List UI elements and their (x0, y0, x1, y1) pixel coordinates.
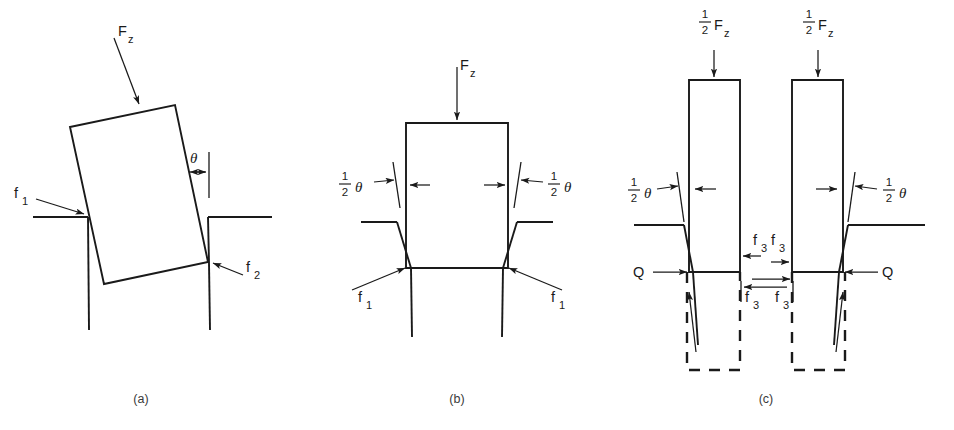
panel-c-force-half-num-left: 1 (702, 8, 708, 20)
panel-b-angle-arrow-left (374, 180, 394, 182)
panel-c-force-half-num-right: 1 (806, 8, 812, 20)
panel-a-force-label-subscript: z (128, 33, 134, 45)
panel-b-f1-label-left-subscript: 1 (366, 299, 372, 311)
panel-a-f1-label-subscript: 1 (22, 195, 28, 207)
panel-c-angle-half-den-left: 2 (631, 192, 637, 204)
panel-c-f3-label-upper-left: f (753, 232, 758, 248)
panel-a-f2-label: f (246, 259, 251, 275)
panel-b-f1-label-left: f (358, 289, 363, 305)
panel-b-groove-wall-right (502, 268, 503, 337)
panel-c-angle-half-num-left: 1 (631, 176, 637, 188)
panel-c-half-fraction-angle-right: 1 2 (883, 176, 895, 204)
panel-a-f2-label-subscript: 2 (254, 269, 260, 281)
panel-c-angle-label-left: θ (644, 185, 652, 201)
panel-c: 1 2 F z 1 2 θ Q f 3 f 3 (628, 8, 925, 406)
panel-c-force-label-right-subscript: z (828, 27, 834, 39)
panel-c-force-label-right: F (818, 17, 827, 33)
panel-c-f3-label-lower-left-subscript: 3 (753, 299, 759, 311)
panel-c-half-fraction-force-right: 1 2 (803, 8, 815, 36)
figure-container: F z θ f 1 f 2 (a) F z (0, 0, 954, 430)
panel-b-half-num-left: 1 (342, 170, 348, 182)
panel-c-f3-label-upper-right: f (771, 232, 776, 248)
panel-b-groove-shoulder-left (397, 222, 411, 268)
panel-b-f1-leader-left (352, 268, 405, 290)
panel-c-block-right (792, 80, 843, 272)
panel-a-block (70, 105, 208, 284)
panel-c-block-left (689, 80, 740, 272)
panel-c-angle-label-right: θ (899, 185, 907, 201)
panel-c-f3-label-lower-right: f (775, 289, 780, 305)
panel-a-force-arrow (114, 38, 139, 104)
panel-a-angle-label: θ (190, 150, 198, 166)
panel-b-half-den-right: 2 (551, 186, 557, 198)
panel-b-caption: (b) (449, 392, 464, 406)
panel-b-angle-reference-left (393, 162, 400, 208)
panel-b-angle-reference-right (514, 162, 521, 208)
panel-c-force-label-left-subscript: z (724, 27, 730, 39)
panel-b-groove-shoulder-right (503, 222, 517, 268)
panel-c-half-fraction-force-left: 1 2 (699, 8, 711, 36)
panel-c-q-label-left: Q (633, 264, 644, 280)
panel-a-f2-leader (213, 263, 243, 275)
panel-c-angle-reference-right (848, 172, 855, 222)
panel-b-force-label: F (460, 57, 469, 73)
panel-b-half-fraction-right: 1 2 (548, 170, 560, 198)
panel-a-f1-leader (36, 199, 84, 214)
panel-c-half-fraction-angle-left: 1 2 (628, 176, 640, 204)
panel-c-q-label-right: Q (882, 264, 893, 280)
panel-c-f3-label-upper-left-subscript: 3 (761, 242, 767, 254)
panel-c-angle-reference-left (677, 172, 684, 222)
panel-b-f1-label-right: f (551, 289, 556, 305)
panel-b-half-den-left: 2 (342, 186, 348, 198)
panel-b-groove-wall-left (411, 268, 412, 337)
panel-b-half-fraction-left: 1 2 (339, 170, 351, 198)
panel-c-angle-arrow-left (657, 186, 678, 189)
panel-c-force-half-den-left: 2 (702, 24, 708, 36)
panel-b-block (406, 123, 508, 268)
panel-b-f1-leader-right (509, 268, 562, 290)
panel-c-f3-label-upper-right-subscript: 3 (779, 242, 785, 254)
panel-b-force-label-subscript: z (470, 67, 476, 79)
panel-c-angle-half-den-right: 2 (886, 192, 892, 204)
panel-c-f3-label-lower-right-subscript: 3 (783, 299, 789, 311)
panel-c-f3-label-lower-left: f (745, 289, 750, 305)
panel-c-angle-half-num-right: 1 (886, 176, 892, 188)
panel-a-caption: (a) (133, 392, 148, 406)
panel-a-step-right (208, 217, 209, 263)
panel-b: F z 1 2 θ 1 2 θ f 1 f 1 (b) (339, 57, 572, 406)
panel-b-f1-label-right-subscript: 1 (559, 299, 565, 311)
panel-b-angle-label-right: θ (564, 179, 572, 195)
panel-b-angle-arrow-right (521, 180, 543, 182)
panel-a-f1-label: f (14, 185, 19, 201)
diagram-canvas: F z θ f 1 f 2 (a) F z (0, 0, 954, 430)
panel-c-caption: (c) (759, 392, 774, 406)
panel-c-angle-arrow-right (855, 186, 877, 189)
panel-b-half-num-right: 1 (551, 170, 557, 182)
panel-a-groove-wall-right (209, 263, 210, 330)
panel-a-force-label: F (118, 23, 127, 39)
panel-a: F z θ f 1 f 2 (a) (14, 23, 272, 406)
panel-b-angle-label-left: θ (355, 179, 363, 195)
panel-c-force-label-left: F (714, 17, 723, 33)
panel-a-groove-wall-left (88, 217, 89, 330)
panel-c-force-half-den-right: 2 (806, 24, 812, 36)
